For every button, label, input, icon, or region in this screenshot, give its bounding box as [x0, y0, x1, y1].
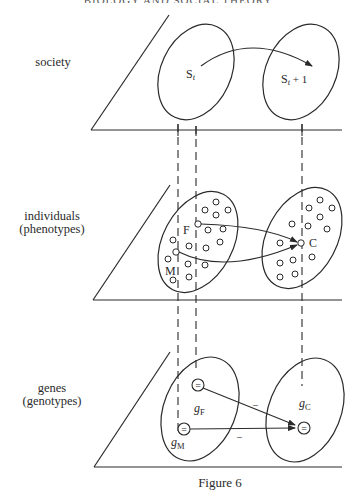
society-t-plus-1-label: St + 1: [281, 72, 307, 87]
plane-edge-diagonal: [94, 352, 170, 467]
father-to-child-arrow: [201, 224, 297, 242]
plane-edge-diagonal: [91, 15, 169, 130]
mother-node: [173, 249, 179, 255]
mother-to-child-arrow: [179, 245, 297, 262]
society-t-label: St: [186, 67, 196, 82]
society-ellipse-t-plus-1: [248, 12, 354, 132]
society-transition-arrow: [201, 48, 312, 66]
figure-6-diagram: BIOLOGY AND SOCIAL THEORY society indivi…: [0, 0, 362, 492]
child-gene-symbol: =: [301, 423, 307, 434]
child-node: [298, 240, 304, 246]
plane-edge-diagonal: [93, 185, 170, 300]
father-arrow-mark: –: [252, 399, 259, 410]
individuals-circles-offspring: [277, 197, 335, 280]
diagram-canvas: St St + 1 F M C = = = gF gM gC – –: [0, 0, 362, 492]
father-node: [195, 221, 201, 227]
figure-caption: Figure 6: [0, 475, 362, 491]
child-label: C: [309, 236, 317, 250]
father-gene-arrow: [203, 388, 295, 425]
mother-gene-symbol: =: [181, 424, 187, 435]
mother-genotype-label: gM: [171, 435, 185, 451]
child-genotype-label: gC: [299, 396, 311, 412]
father-genotype-label: gF: [194, 401, 205, 417]
father-label: F: [183, 223, 190, 237]
father-gene-symbol: =: [195, 380, 201, 391]
mother-gene-arrow: [190, 428, 295, 429]
mother-label: M: [165, 264, 176, 278]
parents-population-ellipse: [142, 178, 255, 306]
mother-arrow-mark: –: [236, 431, 243, 442]
